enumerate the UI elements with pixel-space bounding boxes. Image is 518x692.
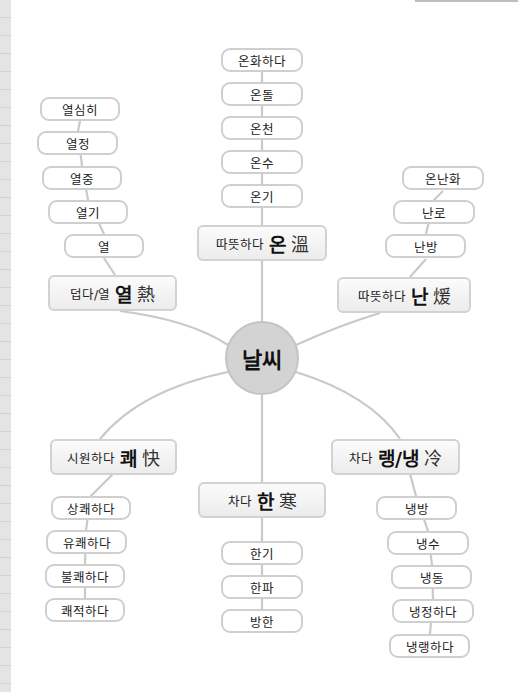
hub-meaning: 시원하다 [67, 448, 115, 467]
hub-hanja: 寒 [279, 487, 297, 513]
leaf-kwae-1: 유쾌하다 [46, 530, 127, 554]
hub-meaning: 덥다/열 [70, 284, 110, 303]
leaf-yeol-2: 열중 [42, 166, 122, 190]
hub-hanja: 熱 [137, 280, 155, 306]
hub-syllable: 난 [411, 282, 428, 309]
leaf-nan-1: 난로 [393, 200, 475, 224]
hub-meaning: 차다 [228, 491, 252, 510]
hub-hanja: 快 [142, 444, 160, 470]
leaf-kwae-2: 불쾌하다 [45, 564, 125, 588]
leaf-on-0: 온화하다 [221, 48, 303, 72]
hub-han: 차다 한 寒 [198, 482, 326, 518]
leaf-on-3: 온수 [221, 150, 303, 174]
leaf-naeng-4: 냉랭하다 [389, 634, 470, 658]
hub-meaning: 따뜻하다 [358, 286, 406, 305]
hub-kwae: 시원하다 쾌 快 [50, 439, 177, 475]
leaf-han-0: 한기 [221, 541, 303, 565]
hub-nan: 따뜻하다 난 煖 [337, 277, 471, 313]
leaf-naeng-3: 냉정하다 [392, 599, 474, 623]
hub-syllable: 랭/냉 [378, 444, 419, 471]
leaf-han-1: 한파 [221, 575, 303, 599]
leaf-han-2: 방한 [221, 609, 303, 633]
leaf-on-4: 온기 [221, 184, 303, 208]
hub-yeol: 덥다/열 열 熱 [48, 275, 177, 311]
leaf-nan-0: 온난화 [402, 166, 484, 190]
leaf-kwae-3: 쾌적하다 [45, 598, 125, 622]
hub-syllable: 온 [269, 230, 286, 257]
hub-syllable: 한 [257, 487, 274, 514]
hub-meaning: 차다 [349, 448, 373, 467]
hub-naeng: 차다 랭/냉 冷 [331, 439, 460, 475]
leaf-yeol-3: 열기 [48, 200, 128, 224]
leaf-yeol-0: 열심히 [40, 97, 120, 121]
leaf-on-2: 온천 [221, 116, 303, 140]
hub-on: 따뜻하다 온 溫 [197, 225, 327, 261]
center-node-weather: 날씨 [225, 321, 299, 395]
leaf-nan-2: 난방 [385, 234, 466, 258]
hub-hanja: 煖 [433, 282, 451, 308]
hub-meaning: 따뜻하다 [216, 234, 264, 253]
leaf-yeol-4: 열 [64, 234, 144, 258]
leaf-naeng-2: 냉동 [391, 565, 472, 589]
hub-syllable: 쾌 [120, 444, 137, 471]
center-label: 날씨 [242, 342, 282, 374]
hub-syllable: 열 [115, 280, 132, 307]
leaf-naeng-0: 냉방 [376, 496, 457, 520]
leaf-naeng-1: 냉수 [387, 531, 469, 555]
leaf-on-1: 온돌 [221, 82, 303, 106]
hub-hanja: 溫 [291, 230, 309, 256]
hub-hanja: 冷 [424, 444, 442, 470]
leaf-kwae-0: 상쾌하다 [51, 496, 131, 520]
leaf-yeol-1: 열정 [37, 131, 118, 155]
